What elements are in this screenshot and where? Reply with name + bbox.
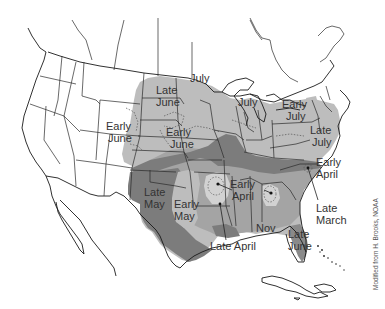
- canada-province-line: [72, 20, 92, 60]
- label-july-north: July: [190, 72, 210, 84]
- label-early-april-south: EarlyApril: [230, 178, 256, 202]
- label-early-july-ne: EarlyJuly: [282, 98, 308, 122]
- label-late-april: Late April: [210, 240, 256, 252]
- cuba: [262, 276, 328, 298]
- us-west-coast: [22, 28, 46, 176]
- label-early-june-central: EarlyJune: [166, 126, 194, 150]
- us-timing-map: LateJune July EarlyJune EarlyJune July E…: [0, 0, 385, 309]
- canada-province-line: [250, 18, 298, 82]
- label-early-april-east: EarlyApril: [316, 156, 342, 180]
- label-early-june-west: EarlyJune: [106, 120, 132, 144]
- label-late-june-florida: LateJune: [288, 228, 312, 252]
- small-island: [294, 298, 300, 300]
- label-late-may: LateMay: [144, 186, 165, 210]
- canada-coast: [318, 26, 344, 62]
- hispaniola: [314, 284, 336, 292]
- label-nov: Nov: [256, 222, 276, 234]
- source-credit: Modified from H. Brooks, NOAA: [372, 198, 379, 290]
- label-late-july-east: LateJuly: [310, 124, 332, 148]
- label-late-march: LateMarch: [316, 202, 347, 226]
- mexico-mainland-coast: [60, 200, 116, 276]
- label-july-michigan: July: [238, 96, 258, 108]
- canada-province-line: [114, 20, 124, 70]
- bahamas: [317, 245, 345, 271]
- label-late-june-north: LateJune: [156, 84, 180, 108]
